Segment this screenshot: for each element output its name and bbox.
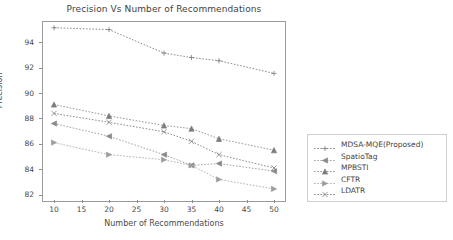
chart-title: Precision Vs Number of Recommendations xyxy=(42,4,286,14)
legend-label: SpatioTag xyxy=(338,152,377,161)
y-tick-mark xyxy=(39,68,42,69)
y-axis-label: Precision xyxy=(0,73,4,109)
y-tick-label: 90 xyxy=(12,89,34,98)
y-tick-label: 92 xyxy=(12,63,34,72)
x-axis-label: Number of Recommendations xyxy=(42,219,286,228)
chart-figure: Precision Vs Number of Recommendations 8… xyxy=(0,0,453,240)
x-tick-mark xyxy=(164,200,165,203)
x-tick-mark xyxy=(247,200,248,203)
x-tick-mark xyxy=(82,200,83,203)
legend-label: MPBSTI xyxy=(338,163,369,172)
series-line-1 xyxy=(54,124,274,172)
x-tick-mark xyxy=(219,200,220,203)
plot-area xyxy=(42,21,286,202)
x-tick-label: 50 xyxy=(262,205,286,214)
plot-lines xyxy=(43,22,285,201)
legend-item-mdsa-mqe-proposed[interactable]: MDSA-MQE(Proposed) xyxy=(312,139,441,151)
x-tick-mark xyxy=(192,200,193,203)
y-tick-label: 88 xyxy=(12,114,34,123)
legend-item-cftr[interactable]: CFTR xyxy=(312,174,441,186)
legend-item-mpbsti[interactable]: MPBSTI xyxy=(312,162,441,174)
legend-label: MDSA-MQE(Proposed) xyxy=(338,140,423,149)
y-tick-mark xyxy=(39,144,42,145)
legend-label: LDATR xyxy=(338,186,365,195)
y-tick-mark xyxy=(39,195,42,196)
legend-item-ldatr[interactable]: LDATR xyxy=(312,185,441,197)
legend-marker-icon xyxy=(312,185,338,196)
x-tick-label: 15 xyxy=(70,205,94,214)
series-line-3 xyxy=(54,143,274,189)
x-tick-label: 10 xyxy=(42,205,66,214)
legend-label: CFTR xyxy=(338,175,360,184)
x-tick-mark xyxy=(54,200,55,203)
x-tick-label: 30 xyxy=(152,205,176,214)
legend-marker-icon xyxy=(312,139,338,150)
legend-item-spatiotag[interactable]: SpatioTag xyxy=(312,151,441,163)
x-tick-mark xyxy=(109,200,110,203)
x-tick-mark xyxy=(137,200,138,203)
y-tick-label: 86 xyxy=(12,139,34,148)
y-tick-label: 82 xyxy=(12,190,34,199)
y-tick-mark xyxy=(39,169,42,170)
x-tick-label: 40 xyxy=(207,205,231,214)
y-tick-mark xyxy=(39,42,42,43)
chart-legend: MDSA-MQE(Proposed)SpatioTagMPBSTICFTRLDA… xyxy=(307,134,447,202)
x-tick-mark xyxy=(274,200,275,203)
x-tick-label: 45 xyxy=(235,205,259,214)
legend-marker-icon xyxy=(312,151,338,162)
x-tick-label: 35 xyxy=(180,205,204,214)
y-tick-label: 84 xyxy=(12,165,34,174)
x-tick-label: 25 xyxy=(125,205,149,214)
y-tick-label: 94 xyxy=(12,38,34,47)
y-tick-mark xyxy=(39,93,42,94)
y-tick-mark xyxy=(39,118,42,119)
x-tick-label: 20 xyxy=(97,205,121,214)
legend-marker-icon xyxy=(312,162,338,173)
legend-marker-icon xyxy=(312,174,338,185)
